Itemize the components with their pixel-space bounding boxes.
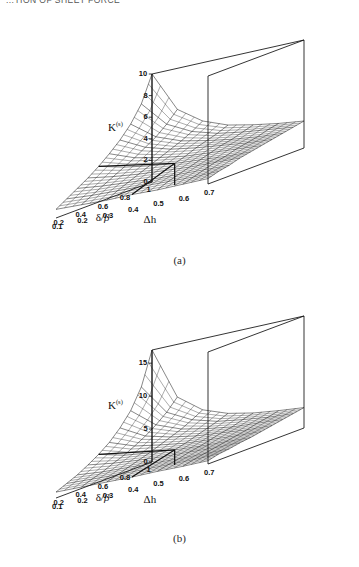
xtick-0.6: 0.6 bbox=[98, 202, 108, 211]
xtick-0.6: 0.6 bbox=[98, 482, 108, 491]
ytick-0.1: 0.1 bbox=[52, 502, 62, 511]
figure-a: 0246810K(s)10.80.60.40.2δ/β0.10.20.30.40… bbox=[0, 22, 359, 277]
z-axis-label: K(s) bbox=[108, 120, 123, 133]
xtick-1: 1 bbox=[147, 465, 151, 474]
surface-plot-b-canvas bbox=[0, 300, 359, 525]
ztick-5: 5 bbox=[143, 424, 147, 433]
ytick-0.3: 0.3 bbox=[103, 491, 113, 500]
ytick-0.5: 0.5 bbox=[153, 199, 163, 208]
ztick-4: 4 bbox=[143, 134, 147, 143]
ytick-0.4: 0.4 bbox=[128, 205, 138, 214]
running-head: ...TION OF SHEET FORCE bbox=[6, 0, 120, 5]
figure-b-caption: (b) bbox=[0, 532, 359, 544]
surface-plot-a: 0246810K(s)10.80.60.40.2δ/β0.10.20.30.40… bbox=[0, 22, 359, 247]
ytick-0.6: 0.6 bbox=[179, 194, 189, 203]
y-axis-label: Δh bbox=[144, 493, 157, 505]
ztick-10: 10 bbox=[139, 391, 147, 400]
ztick-10: 10 bbox=[139, 69, 147, 78]
xtick-0.8: 0.8 bbox=[120, 193, 130, 202]
ytick-0.7: 0.7 bbox=[204, 188, 214, 197]
ytick-0.6: 0.6 bbox=[179, 474, 189, 483]
ztick-8: 8 bbox=[143, 91, 147, 100]
figure-a-caption: (a) bbox=[0, 254, 359, 266]
ztick-6: 6 bbox=[143, 112, 147, 121]
ytick-0.2: 0.2 bbox=[77, 496, 87, 505]
ytick-0.5: 0.5 bbox=[153, 479, 163, 488]
y-axis-label: Δh bbox=[144, 213, 157, 225]
ztick-2: 2 bbox=[143, 155, 147, 164]
figure-b: 051015K(s)10.80.60.40.2δ/β0.10.20.30.40.… bbox=[0, 300, 359, 555]
ztick-15: 15 bbox=[139, 358, 147, 367]
ytick-0.4: 0.4 bbox=[128, 485, 138, 494]
xtick-0.8: 0.8 bbox=[120, 473, 130, 482]
surface-plot-b: 051015K(s)10.80.60.40.2δ/β0.10.20.30.40.… bbox=[0, 300, 359, 525]
xtick-1: 1 bbox=[147, 185, 151, 194]
surface-plot-a-canvas bbox=[0, 22, 359, 247]
z-axis-label: K(s) bbox=[108, 398, 123, 411]
page: ...TION OF SHEET FORCE 0246810K(s)10.80.… bbox=[0, 0, 359, 567]
ytick-0.1: 0.1 bbox=[52, 222, 62, 231]
ytick-0.3: 0.3 bbox=[103, 211, 113, 220]
ytick-0.2: 0.2 bbox=[77, 216, 87, 225]
ytick-0.7: 0.7 bbox=[204, 468, 214, 477]
